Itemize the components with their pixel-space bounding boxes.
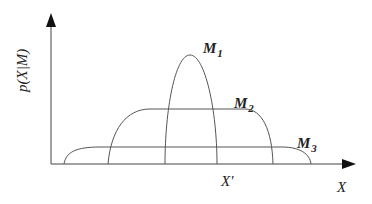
curve-m2 (108, 109, 273, 164)
x-axis-arrow-icon (342, 159, 356, 169)
label-m1: M1 (202, 40, 223, 59)
x-axis-label: X (336, 179, 347, 195)
y-axis-label: p(X|M) (14, 49, 31, 93)
y-axis-arrow-icon (46, 13, 56, 27)
label-m3: M3 (296, 135, 317, 154)
likelihood-diagram: p(X|M) M1 M2 M3 X' X (0, 0, 372, 204)
curve-m3 (64, 147, 311, 164)
marker-x-prime-label: X' (220, 173, 234, 189)
label-m2: M2 (233, 95, 254, 114)
